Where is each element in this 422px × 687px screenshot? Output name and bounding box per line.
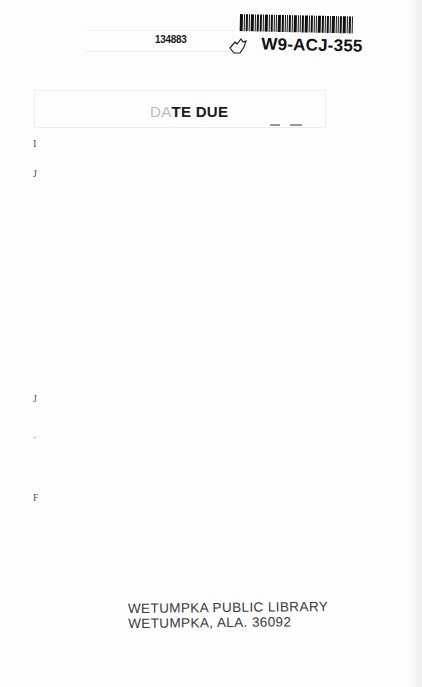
barcode-bar [271, 15, 273, 32]
date-due-heading: DATE DUE [150, 103, 228, 120]
barcode [236, 14, 396, 34]
margin-mark: J [33, 168, 37, 179]
barcode-label: W9-ACJ-355 [235, 14, 396, 67]
barcode-bar [322, 16, 324, 33]
barcode-bar [318, 16, 321, 33]
barcode-bar [265, 15, 268, 32]
smudge [270, 124, 280, 126]
barcode-bar [343, 16, 346, 33]
page-edge-shadow [408, 0, 422, 687]
library-stamp-line1: WETUMPKA PUBLIC LIBRARY [128, 599, 328, 616]
library-stamp: WETUMPKA PUBLIC LIBRARY WETUMPKA, ALA. 3… [128, 599, 329, 631]
smudge [290, 124, 302, 126]
accession-number: 134883 [155, 33, 186, 45]
barcode-bar [260, 15, 262, 32]
margin-mark: · [33, 432, 36, 443]
barcode-bar [340, 16, 342, 33]
library-stamp-line2: WETUMPKA, ALA. 36092 [128, 614, 328, 631]
margin-mark: I [33, 138, 36, 149]
date-due-heading-visible: TE DUE [171, 103, 228, 120]
barcode-bar [251, 14, 254, 31]
barcode-bar [311, 16, 313, 33]
margin-mark: J [33, 393, 37, 404]
barcode-bar [282, 15, 284, 32]
barcode-bar [332, 16, 335, 33]
barcode-bar [257, 14, 259, 31]
date-due-heading-faded: DA [150, 103, 171, 120]
barcode-id: W9-ACJ-355 [261, 35, 363, 57]
barcode-bar [278, 15, 281, 32]
margin-mark: F [33, 492, 39, 503]
barcode-bar [349, 16, 351, 33]
barcode-bar [294, 15, 297, 32]
barcode-bar [327, 16, 329, 33]
barcode-bar [240, 14, 243, 31]
barcode-bar [305, 15, 308, 32]
barcode-bar [246, 14, 248, 31]
barcode-bar [302, 15, 304, 32]
barcode-bar [352, 16, 353, 33]
barcode-bar [289, 15, 291, 32]
